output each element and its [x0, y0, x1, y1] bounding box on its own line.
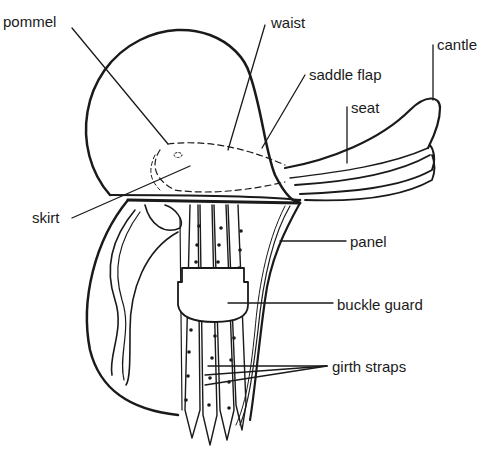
- waist-leader: [228, 25, 265, 150]
- saddle-diagram: pommel waist cantle saddle flap seat ski…: [0, 0, 493, 454]
- saddle-flap-outline: [86, 30, 300, 201]
- label-girth-straps: girth straps: [332, 359, 406, 374]
- girth-straps-leader-2: [205, 366, 327, 375]
- buckle-guard-outline: [178, 268, 248, 322]
- label-cantle: cantle: [437, 37, 477, 52]
- label-skirt: skirt: [32, 210, 60, 225]
- girth-straps-leader-3: [205, 366, 327, 385]
- label-seat: seat: [351, 100, 379, 115]
- girth-straps-drawing: [180, 205, 246, 445]
- label-saddle-flap: saddle flap: [309, 67, 382, 82]
- saddle-illustration: [0, 0, 493, 454]
- skirt-dashed: [155, 143, 285, 192]
- label-pommel: pommel: [3, 14, 56, 29]
- label-panel: panel: [350, 234, 387, 249]
- saddle-flap-leader: [262, 75, 305, 148]
- label-waist: waist: [271, 15, 305, 30]
- panel-outline: [87, 200, 178, 415]
- skirt-leader: [72, 166, 190, 218]
- label-buckle-guard: buckle guard: [337, 297, 423, 312]
